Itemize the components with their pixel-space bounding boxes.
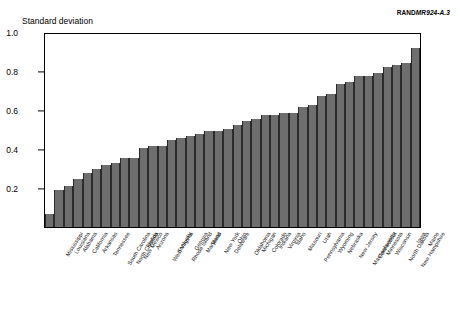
bar bbox=[298, 107, 307, 227]
bar bbox=[345, 82, 354, 227]
bar bbox=[261, 115, 270, 227]
bar bbox=[186, 136, 195, 227]
bar bbox=[289, 113, 298, 227]
y-axis: 0.20.40.60.81.0 bbox=[0, 0, 44, 311]
bar bbox=[111, 163, 120, 227]
bar bbox=[383, 67, 392, 227]
y-axis-tick-label: 0.4 bbox=[6, 145, 18, 155]
y-axis-tick-label: 0.8 bbox=[6, 67, 18, 77]
bar bbox=[176, 138, 185, 227]
bar bbox=[354, 76, 363, 227]
figure-container: RANDMR924-A.3 Standard deviation 0.20.40… bbox=[0, 0, 458, 311]
bar bbox=[401, 63, 410, 227]
bar-series bbox=[45, 34, 420, 227]
bar bbox=[233, 125, 242, 227]
bar bbox=[54, 190, 63, 227]
bar bbox=[158, 146, 167, 227]
y-axis-tick-label: 0.2 bbox=[6, 184, 18, 194]
bar bbox=[204, 131, 213, 228]
bar bbox=[83, 173, 92, 227]
bar bbox=[129, 158, 138, 227]
x-axis-tick-labels: MississippiLouisianaAlabamaCaliforniaArk… bbox=[44, 228, 421, 311]
bar bbox=[326, 94, 335, 227]
bar bbox=[73, 179, 82, 227]
y-axis-tick-label: 1.0 bbox=[6, 28, 18, 38]
bar bbox=[364, 76, 373, 227]
bar bbox=[148, 146, 157, 227]
bar bbox=[64, 186, 73, 227]
bar bbox=[279, 113, 288, 227]
bar bbox=[214, 131, 223, 228]
bar bbox=[411, 48, 420, 227]
bar bbox=[92, 169, 101, 227]
bar bbox=[270, 115, 279, 227]
bar bbox=[45, 214, 54, 228]
bar bbox=[251, 119, 260, 227]
plot-area bbox=[44, 33, 421, 228]
x-axis-tick-label: Kentucky bbox=[176, 230, 194, 254]
bar bbox=[139, 148, 148, 227]
rand-credit-code: MR924-A.3 bbox=[416, 9, 450, 16]
bar bbox=[336, 84, 345, 227]
bar bbox=[223, 129, 232, 227]
bar bbox=[167, 140, 176, 227]
rand-credit-prefix: RAND bbox=[397, 9, 416, 16]
bar bbox=[120, 158, 129, 227]
y-axis-tick-label: 0.6 bbox=[6, 106, 18, 116]
bar bbox=[317, 96, 326, 227]
rand-figure-credit: RANDMR924-A.3 bbox=[397, 9, 450, 16]
bar bbox=[242, 121, 251, 227]
bar bbox=[308, 105, 317, 227]
bar bbox=[195, 134, 204, 227]
bar bbox=[101, 165, 110, 227]
bar bbox=[373, 73, 382, 227]
bar bbox=[392, 65, 401, 227]
